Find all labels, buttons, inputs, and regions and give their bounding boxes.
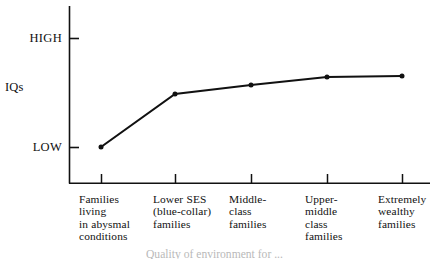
x-axis-caption: Quality of environment for ... bbox=[146, 249, 283, 259]
x-axis-category-label: Middle- class families bbox=[229, 193, 267, 230]
x-axis-category-label: Extremely wealthy families bbox=[378, 193, 426, 230]
x-axis-category-label: Upper- middle class families bbox=[305, 193, 343, 243]
x-axis-category-label: Families living in abysmal conditions bbox=[79, 193, 130, 243]
chart-figure: IQs HIGH LOW Families living in abysmal … bbox=[0, 0, 430, 259]
x-axis-category-labels: Families living in abysmal conditionsLow… bbox=[0, 0, 430, 259]
x-axis-category-label: Lower SES (blue-collar) families bbox=[153, 193, 211, 230]
